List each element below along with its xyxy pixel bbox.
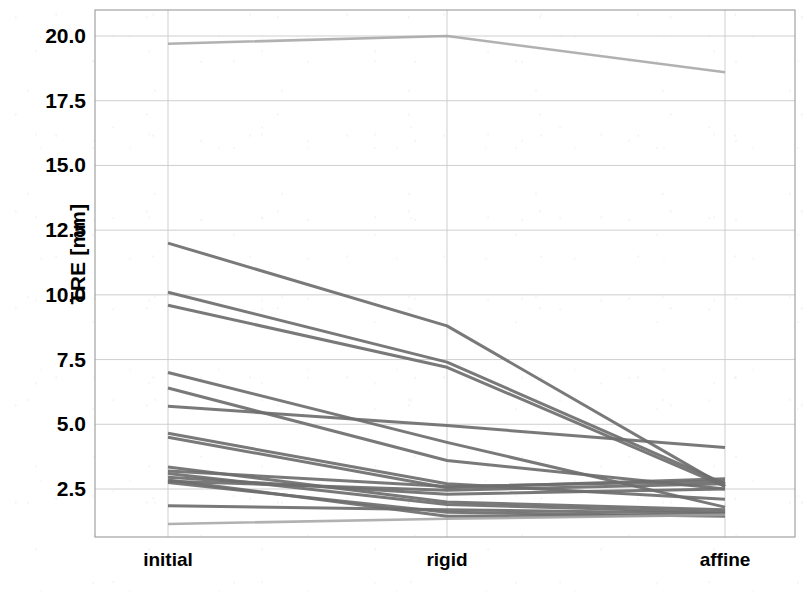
gridlines: [95, 10, 795, 537]
plot-canvas: [0, 0, 808, 592]
y-tick-label: 2.5: [10, 477, 86, 501]
plot-frame: [95, 10, 795, 537]
y-tick-label: 10.0: [10, 283, 86, 307]
series-line: [168, 437, 725, 487]
y-axis-tick-labels: 20.017.515.012.510.07.55.02.5: [10, 0, 86, 592]
y-tick-label: 12.5: [10, 218, 86, 242]
x-tick-label-rigid: rigid: [426, 549, 467, 571]
y-tick-label: 5.0: [10, 412, 86, 436]
series-line: [168, 292, 725, 484]
tre-slope-chart: TRE [mm] 20.017.515.012.510.07.55.02.5 i…: [0, 0, 808, 592]
x-tick-label-affine: affine: [700, 549, 751, 571]
y-tick-label: 17.5: [10, 89, 86, 113]
y-tick-label: 7.5: [10, 348, 86, 372]
x-tick-label-initial: initial: [143, 549, 193, 571]
y-tick-label: 20.0: [10, 24, 86, 48]
y-tick-label: 15.0: [10, 153, 86, 177]
series-lines: [168, 36, 725, 524]
series-line: [168, 36, 725, 72]
